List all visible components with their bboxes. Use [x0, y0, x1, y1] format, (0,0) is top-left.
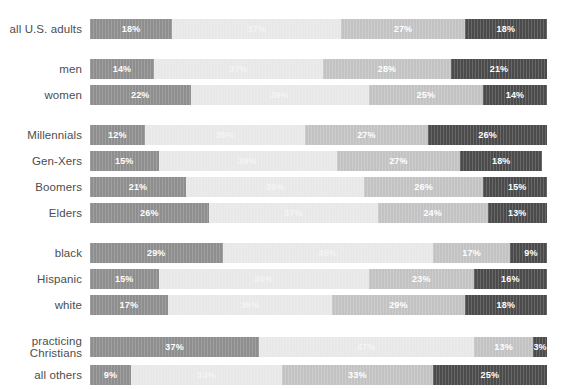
segment-value-label: 39% — [270, 90, 289, 100]
chart-group-faith: practicing Christians37%47%13%3%all othe… — [0, 334, 563, 386]
chart-row: all U.S. adults18%37%27%18% — [0, 18, 563, 40]
bar-segment-3[interactable]: 27% — [305, 125, 428, 145]
bar-segment-2[interactable]: 39% — [159, 151, 337, 171]
bar-segment-3[interactable]: 27% — [337, 151, 460, 171]
group-gap — [0, 110, 563, 124]
bar-segment-1[interactable]: 14% — [90, 59, 154, 79]
bar-segment-1[interactable]: 29% — [90, 243, 223, 263]
segment-value-label: 29% — [147, 248, 166, 258]
segment-value-label: 47% — [357, 342, 376, 352]
bar-segment-3[interactable]: 26% — [364, 177, 483, 197]
chart-row: all others9%33%33%25% — [0, 364, 563, 386]
segment-value-label: 18% — [492, 156, 511, 166]
row-label: Elders — [0, 207, 90, 219]
stacked-bar: 14%37%28%21% — [90, 59, 547, 79]
bar-segment-1[interactable]: 22% — [90, 85, 191, 105]
stacked-bar: 15%39%27%18% — [90, 151, 547, 171]
bar-segment-2[interactable]: 46% — [223, 243, 433, 263]
bar-segment-2[interactable]: 47% — [259, 337, 474, 357]
bar-segment-3[interactable]: 33% — [282, 365, 433, 385]
bar-segment-1[interactable]: 37% — [90, 337, 259, 357]
row-label: Boomers — [0, 181, 90, 193]
segment-value-label: 15% — [115, 274, 134, 284]
bar-segment-1[interactable]: 12% — [90, 125, 145, 145]
chart-row: Hispanic15%46%23%16% — [0, 268, 563, 290]
segment-value-label: 28% — [378, 64, 397, 74]
stacked-bar: 17%36%29%18% — [90, 295, 547, 315]
stacked-bar: 15%46%23%16% — [90, 269, 547, 289]
bar-segment-4[interactable]: 21% — [451, 59, 547, 79]
segment-value-label: 27% — [389, 156, 408, 166]
row-label: men — [0, 63, 90, 75]
stacked-bar: 29%46%17%9% — [90, 243, 547, 263]
bar-segment-4[interactable]: 18% — [460, 151, 542, 171]
bar-segment-4[interactable]: 13% — [488, 203, 547, 223]
bar-segment-1[interactable]: 15% — [90, 151, 159, 171]
bar-segment-1[interactable]: 9% — [90, 365, 131, 385]
bar-segment-4[interactable]: 14% — [483, 85, 547, 105]
segment-value-label: 14% — [113, 64, 132, 74]
bar-segment-1[interactable]: 17% — [90, 295, 168, 315]
segment-value-label: 25% — [417, 90, 436, 100]
stacked-bar: 21%39%26%15% — [90, 177, 547, 197]
bar-segment-3[interactable]: 24% — [378, 203, 488, 223]
bar-segment-2[interactable]: 37% — [209, 203, 378, 223]
segment-value-label: 15% — [115, 156, 134, 166]
segment-value-label: 39% — [238, 156, 257, 166]
bar-segment-4[interactable]: 9% — [510, 243, 547, 263]
bar-segment-2[interactable]: 33% — [131, 365, 282, 385]
bar-segment-4[interactable]: 25% — [433, 365, 547, 385]
bar-segment-2[interactable]: 36% — [168, 295, 333, 315]
bar-segment-2[interactable]: 39% — [186, 177, 364, 197]
stacked-bar: 37%47%13%3% — [90, 337, 547, 357]
segment-value-label: 35% — [215, 130, 234, 140]
chart-row: Elders26%37%24%13% — [0, 202, 563, 224]
row-label: practicing Christians — [0, 335, 90, 360]
segment-value-label: 27% — [394, 24, 413, 34]
bar-segment-3[interactable]: 25% — [369, 85, 483, 105]
row-label: women — [0, 89, 90, 101]
bar-segment-2[interactable]: 37% — [154, 59, 323, 79]
row-label: Gen-Xers — [0, 155, 90, 167]
bar-segment-4[interactable]: 26% — [428, 125, 547, 145]
chart-row: practicing Christians37%47%13%3% — [0, 334, 563, 360]
segment-value-label: 3% — [533, 342, 546, 352]
bar-segment-4[interactable]: 15% — [483, 177, 547, 197]
row-label: black — [0, 247, 90, 259]
bar-segment-1[interactable]: 21% — [90, 177, 186, 197]
group-gap — [0, 320, 563, 334]
bar-segment-2[interactable]: 46% — [159, 269, 369, 289]
stacked-bar: 18%37%27%18% — [90, 19, 547, 39]
bar-segment-3[interactable]: 27% — [341, 19, 464, 39]
bar-segment-3[interactable]: 23% — [369, 269, 474, 289]
segment-value-label: 14% — [506, 90, 525, 100]
bar-segment-2[interactable]: 37% — [172, 19, 341, 39]
bar-segment-4[interactable]: 18% — [465, 295, 547, 315]
chart-group-overall: all U.S. adults18%37%27%18% — [0, 18, 563, 40]
segment-value-label: 21% — [490, 64, 509, 74]
bar-segment-1[interactable]: 15% — [90, 269, 159, 289]
segment-value-label: 37% — [284, 208, 303, 218]
chart-group-ethnicity: black29%46%17%9%Hispanic15%46%23%16%whit… — [0, 242, 563, 316]
chart-row: men14%37%28%21% — [0, 58, 563, 80]
bar-segment-4[interactable]: 3% — [533, 337, 547, 357]
row-label: Millennials — [0, 129, 90, 141]
bar-segment-4[interactable]: 18% — [465, 19, 547, 39]
bar-segment-3[interactable]: 13% — [474, 337, 533, 357]
bar-segment-3[interactable]: 17% — [433, 243, 511, 263]
segment-value-label: 21% — [129, 182, 148, 192]
segment-value-label: 18% — [497, 300, 516, 310]
bar-segment-2[interactable]: 35% — [145, 125, 305, 145]
bar-segment-1[interactable]: 26% — [90, 203, 209, 223]
segment-value-label: 15% — [508, 182, 527, 192]
chart-group-gender: men14%37%28%21%women22%39%25%14% — [0, 58, 563, 106]
stacked-bar: 26%37%24%13% — [90, 203, 547, 223]
group-gap — [0, 44, 563, 58]
segment-value-label: 13% — [508, 208, 527, 218]
bar-segment-3[interactable]: 28% — [323, 59, 451, 79]
bar-segment-2[interactable]: 39% — [191, 85, 369, 105]
bar-segment-1[interactable]: 18% — [90, 19, 172, 39]
bar-segment-4[interactable]: 16% — [474, 269, 547, 289]
bar-segment-3[interactable]: 29% — [332, 295, 465, 315]
chart-row: Gen-Xers15%39%27%18% — [0, 150, 563, 172]
